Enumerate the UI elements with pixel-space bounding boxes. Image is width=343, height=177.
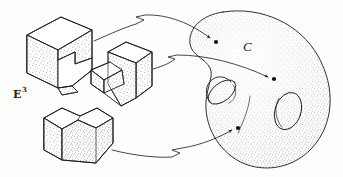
figure-canvas: C E 3: [0, 0, 343, 177]
marked-point-3: [236, 126, 240, 130]
notched-cube-lower-left: [44, 108, 113, 163]
domain-label-e: E: [13, 88, 21, 101]
configuration-surface: C: [180, 0, 343, 177]
notched-cube-upper-left: [27, 17, 92, 95]
marked-point-1: [214, 40, 218, 44]
domain-label-superscript: 3: [22, 85, 27, 94]
surface-label-c: C: [243, 39, 252, 54]
notched-cube-middle: [91, 42, 152, 106]
figure-svg: C E 3: [0, 0, 343, 177]
domain-objects-group: [27, 17, 152, 163]
marked-point-2: [272, 77, 276, 81]
domain-label-group: E 3: [13, 85, 27, 101]
surface-highlight-wash: [180, 0, 343, 177]
